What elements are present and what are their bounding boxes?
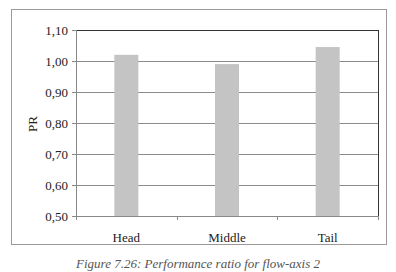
bar-tail	[316, 47, 340, 216]
x-tick-label: Head	[113, 230, 141, 245]
figure-caption: Figure 7.26: Performance ratio for flow-…	[0, 256, 396, 272]
x-tick-label: Tail	[318, 230, 338, 245]
bars	[114, 47, 339, 216]
y-tick-label: 1,00	[45, 54, 68, 69]
y-tick-label: 0,80	[45, 116, 68, 131]
y-tick-label: 0,90	[45, 85, 68, 100]
y-tick-label: 0,70	[45, 147, 68, 162]
y-tick-label: 0,50	[45, 209, 68, 224]
y-axis-title: PR	[25, 116, 40, 132]
y-tick-label: 1,10	[45, 23, 68, 38]
tick-labels: 0,500,600,700,800,901,001,10HeadMiddleTa…	[45, 23, 338, 245]
x-tick-label: Middle	[208, 230, 246, 245]
bar-middle	[215, 64, 239, 216]
bar-head	[114, 55, 138, 216]
y-tick-label: 0,60	[45, 178, 68, 193]
